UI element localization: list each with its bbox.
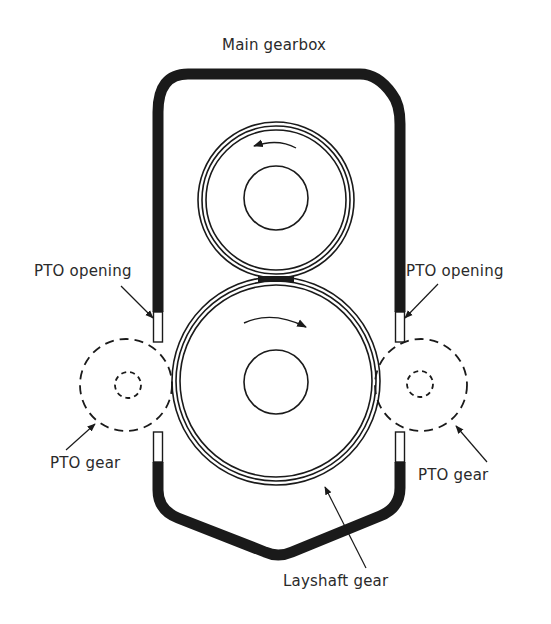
pto-gear-right-leader-arrow-icon bbox=[456, 426, 487, 462]
diagram-title: Main gearbox bbox=[222, 36, 326, 54]
pto-opening-left bbox=[154, 312, 163, 462]
label-pto-opening-right: PTO opening bbox=[406, 262, 504, 280]
label-pto-gear-right: PTO gear bbox=[418, 466, 489, 484]
pto-opening-left-leader-arrow-icon bbox=[121, 286, 153, 318]
gearbox-diagram bbox=[0, 0, 551, 624]
pto-opening-right bbox=[396, 312, 405, 462]
upper-gear-hub bbox=[244, 166, 308, 230]
layshaft-gear-hub bbox=[244, 350, 308, 414]
counter-clockwise-arrow-icon bbox=[254, 142, 296, 148]
label-layshaft-gear: Layshaft gear bbox=[283, 572, 388, 590]
pto-opening-right-leader-arrow-icon bbox=[405, 284, 438, 318]
main-gearbox-housing bbox=[158, 74, 400, 555]
layshaft-gear bbox=[172, 277, 380, 485]
clockwise-arrow-icon bbox=[244, 317, 306, 327]
upper-gear bbox=[198, 122, 354, 278]
label-pto-gear-left: PTO gear bbox=[50, 454, 121, 472]
label-pto-opening-left: PTO opening bbox=[34, 262, 132, 280]
pto-gear-right bbox=[375, 339, 467, 431]
pto-gear-left-leader-arrow-icon bbox=[66, 424, 95, 450]
pto-gear-left bbox=[80, 339, 172, 431]
